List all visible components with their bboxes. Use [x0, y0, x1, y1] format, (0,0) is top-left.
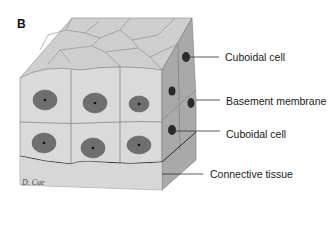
- label-basement-membrane: Basement membrane: [226, 95, 326, 107]
- artist-signature: D. Cue: [22, 178, 45, 187]
- label-cuboidal-cell-top: Cuboidal cell: [225, 51, 285, 63]
- label-cuboidal-cell-bottom: Cuboidal cell: [226, 128, 286, 140]
- label-connective-tissue: Connective tissue: [210, 168, 293, 180]
